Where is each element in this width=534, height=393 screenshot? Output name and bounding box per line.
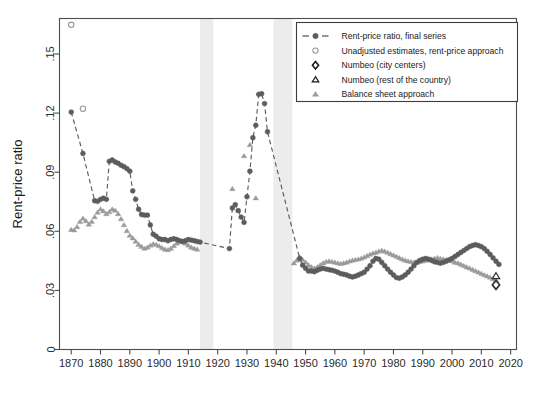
series-unadjusted — [69, 22, 86, 111]
data-point — [496, 262, 501, 267]
data-point — [69, 110, 74, 115]
data-point — [89, 219, 95, 223]
legend-box: Rent-price ratio, final seriesUnadjusted… — [297, 23, 518, 102]
legend-label: Balance sheet approach — [342, 89, 435, 99]
data-point — [69, 22, 74, 27]
legend-label: Rent-price ratio, final series — [342, 31, 447, 41]
data-point — [262, 101, 267, 106]
data-point — [127, 169, 132, 174]
x-tick-label: 1990 — [411, 357, 435, 369]
y-axis-title: Rent-price ratio — [10, 140, 25, 229]
y-axis: 0.03.06.09.12.15 — [45, 46, 60, 352]
axis-titles: Rent-price ratio — [10, 140, 25, 229]
data-point — [233, 202, 238, 207]
data-point — [145, 213, 150, 218]
y-tick-label: 0 — [45, 346, 57, 352]
legend-item-1[interactable]: Unadjusted estimates, rent-price approac… — [313, 46, 504, 56]
x-tick-label: 1940 — [264, 357, 288, 369]
data-point — [92, 215, 98, 219]
shaded-band-world-war-one — [200, 19, 213, 350]
legend-label: Numbeo (city centers) — [342, 60, 426, 70]
data-point — [247, 169, 252, 174]
x-tick-label: 1980 — [381, 357, 405, 369]
data-point — [133, 197, 138, 202]
data-point — [227, 246, 232, 251]
data-point — [259, 91, 264, 96]
data-point — [230, 186, 236, 190]
shaded-band-world-war-two — [273, 19, 292, 350]
data-point — [104, 197, 109, 202]
x-tick-label: 1870 — [59, 357, 83, 369]
data-point — [242, 220, 247, 225]
rent-price-ratio-chart: 0.03.06.09.12.15 18701880189019001910192… — [0, 0, 534, 393]
data-point — [245, 194, 250, 199]
data-point — [368, 263, 373, 268]
data-point — [148, 223, 153, 228]
data-point — [253, 123, 258, 128]
data-point — [265, 129, 270, 134]
data-point — [136, 207, 141, 212]
x-tick-label: 1960 — [323, 357, 347, 369]
data-point — [250, 135, 255, 140]
data-point — [297, 256, 302, 261]
x-tick-label: 1970 — [352, 357, 376, 369]
data-point — [130, 188, 135, 193]
y-tick-label: .06 — [45, 224, 57, 239]
y-tick-label: .03 — [45, 283, 57, 298]
x-axis: 1870188018901900191019201930194019501960… — [59, 350, 523, 369]
data-point — [198, 240, 203, 245]
x-tick-label: 2000 — [440, 357, 464, 369]
x-tick-label: 1880 — [88, 357, 112, 369]
data-point — [121, 222, 127, 226]
data-point — [236, 208, 241, 213]
x-tick-label: 1890 — [118, 357, 142, 369]
y-tick-label: .09 — [45, 165, 57, 180]
data-point — [124, 228, 130, 232]
legend-label: Numbeo (rest of the country) — [342, 75, 452, 85]
x-tick-label: 1920 — [205, 357, 229, 369]
data-point — [80, 106, 85, 111]
data-point — [241, 153, 247, 157]
data-point — [80, 151, 85, 156]
x-tick-label: 2010 — [469, 357, 493, 369]
x-tick-label: 1900 — [147, 357, 171, 369]
data-point — [239, 215, 244, 220]
y-tick-label: .15 — [45, 46, 57, 61]
chart-figure: 0.03.06.09.12.15 18701880189019001910192… — [0, 0, 534, 393]
legend-marker-filled-circle — [313, 33, 318, 38]
shaded-bands — [200, 19, 292, 350]
x-tick-label: 1930 — [235, 357, 259, 369]
data-point — [74, 224, 80, 228]
legend-label: Unadjusted estimates, rent-price approac… — [342, 46, 504, 56]
data-point — [118, 216, 124, 220]
x-tick-label: 2020 — [498, 357, 522, 369]
y-tick-label: .12 — [45, 105, 57, 120]
x-tick-label: 1910 — [176, 357, 200, 369]
x-tick-label: 1950 — [293, 357, 317, 369]
data-point — [253, 196, 259, 200]
